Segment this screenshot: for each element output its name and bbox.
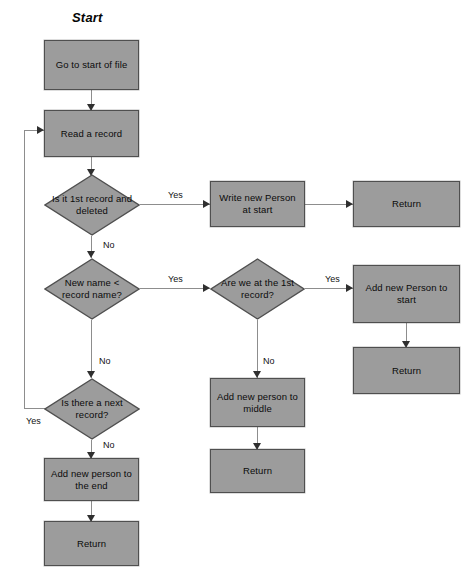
node-label: Go to start of file xyxy=(52,59,132,71)
node-add-new-person-to-start[interactable]: Add new Person to start xyxy=(353,265,460,323)
arrowhead-decision4 xyxy=(87,371,95,378)
node-return-top-right[interactable]: Return xyxy=(353,181,460,227)
node-go-to-start-of-file[interactable]: Go to start of file xyxy=(44,40,139,90)
connector-decision1-yes xyxy=(140,204,210,205)
node-return-bottom-left[interactable]: Return xyxy=(44,521,139,566)
diagram-title: Start xyxy=(72,10,103,25)
edge-label-decision2-yes: Yes xyxy=(168,274,183,284)
node-return-right-mid[interactable]: Return xyxy=(353,347,460,394)
node-add-new-person-to-the-end[interactable]: Add new person to the end xyxy=(44,458,139,501)
node-label: Write new Person at start xyxy=(211,192,304,216)
connector-loop-from-decision4 xyxy=(24,408,46,409)
node-are-we-at-the-1st-record[interactable]: Are we at the 1st record? xyxy=(210,258,305,320)
node-read-a-record[interactable]: Read a record xyxy=(44,110,139,157)
node-new-name-less-than-record-name[interactable]: New name < record name? xyxy=(44,258,140,320)
edge-label-decision4-no: No xyxy=(103,440,115,450)
node-label: Add new person to middle xyxy=(211,391,304,415)
node-write-new-person-at-start[interactable]: Write new Person at start xyxy=(210,181,305,227)
edge-label-decision2-no: No xyxy=(99,356,111,366)
arrowhead-loop-read-record xyxy=(37,126,44,134)
connector-loop-vertical xyxy=(24,130,25,409)
connector-decision3-no xyxy=(257,320,258,378)
node-label: Return xyxy=(239,465,276,477)
node-return-middle[interactable]: Return xyxy=(210,449,305,493)
node-add-new-person-to-middle[interactable]: Add new person to middle xyxy=(210,378,305,427)
arrowhead-decision2 xyxy=(87,251,95,258)
node-label: Add new Person to start xyxy=(354,282,459,306)
node-label: Is it 1st record and deleted xyxy=(44,193,140,217)
node-label: New name < record name? xyxy=(44,277,140,301)
node-label: Return xyxy=(388,198,425,210)
node-label: Read a record xyxy=(57,128,127,140)
node-label: Are we at the 1st record? xyxy=(210,277,305,301)
arrowhead-add-person-middle xyxy=(253,371,261,378)
node-label: Return xyxy=(73,538,110,550)
arrowhead-return-top-right xyxy=(346,200,353,208)
node-label: Return xyxy=(388,365,425,377)
node-is-it-1st-record-and-deleted[interactable]: Is it 1st record and deleted xyxy=(44,174,140,236)
arrowhead-add-person-start xyxy=(346,284,353,292)
node-is-there-a-next-record[interactable]: Is there a next record? xyxy=(44,378,140,440)
node-label: Is there a next record? xyxy=(44,397,140,421)
arrowhead-write-person-start xyxy=(203,200,210,208)
flowchart-canvas: Start Yes No Yes No Yes No xyxy=(0,0,471,586)
edge-label-decision1-yes: Yes xyxy=(168,190,183,200)
arrowhead-decision3 xyxy=(203,284,210,292)
node-label: Add new person to the end xyxy=(45,468,138,492)
edge-label-decision4-yes: Yes xyxy=(26,416,41,426)
edge-label-decision1-no: No xyxy=(103,240,115,250)
connector-decision2-yes xyxy=(140,288,210,289)
edge-label-decision3-no: No xyxy=(263,356,275,366)
connector-decision2-no xyxy=(91,320,92,378)
edge-label-decision3-yes: Yes xyxy=(325,274,340,284)
